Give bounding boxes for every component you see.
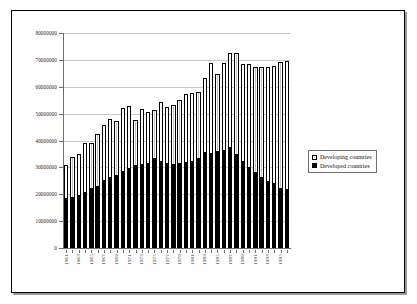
x-axis-tick: [173, 250, 174, 253]
x-axis-tick: [110, 250, 111, 253]
stacked-bar: [196, 92, 200, 248]
y-axis-tick-label: 20000000: [35, 191, 57, 197]
bar-segment-developed: [209, 153, 213, 248]
bar-segment-developing: [114, 121, 118, 174]
bar-segment-developing: [184, 94, 188, 163]
x-axis-tick-label: 1975: [152, 254, 157, 265]
x-axis-tick: [268, 250, 269, 253]
bar-segment-developing: [234, 53, 238, 154]
bar-segment-developed: [247, 167, 251, 248]
bar-segment-developing: [266, 67, 270, 181]
bar-segment-developing: [83, 143, 87, 192]
stacked-bar: [272, 66, 276, 248]
legend-label-developing: Developing countries: [320, 154, 372, 160]
stacked-bar: [108, 119, 112, 248]
stacked-bar: [234, 53, 238, 248]
x-axis-tick: [186, 250, 187, 253]
bar-segment-developed: [253, 172, 257, 248]
stacked-bar: [152, 110, 156, 248]
bar-segment-developed: [259, 177, 263, 248]
y-axis-tick-label: 50000000: [35, 111, 57, 117]
bar-segment-developed: [241, 161, 245, 248]
bar-segment-developing: [190, 93, 194, 161]
bar-segment-developing: [228, 53, 232, 147]
bar-segment-developing: [272, 66, 276, 183]
x-axis-tick-label: 1991: [253, 254, 258, 265]
bar-segment-developed: [203, 152, 207, 248]
bar-segment-developed: [108, 177, 112, 248]
stacked-bar: [77, 154, 81, 248]
bar-segment-developing: [89, 143, 93, 189]
x-axis-tick-label: 1973: [139, 254, 144, 265]
stacked-bar: [177, 100, 181, 248]
legend-label-developed: Developed countries: [320, 163, 369, 169]
stacked-bar: [127, 106, 131, 248]
stacked-bar: [278, 62, 282, 248]
bar-segment-developing: [247, 64, 251, 167]
bar-segment-developed: [146, 163, 150, 248]
x-axis-tick: [136, 250, 137, 253]
bar-segment-developed: [165, 163, 169, 248]
bar-segment-developed: [121, 171, 125, 248]
bar-segment-developed: [102, 180, 106, 248]
bar-segment-developed: [184, 162, 188, 248]
x-axis-tick: [167, 250, 168, 253]
bar-segment-developed: [285, 189, 289, 248]
bar-segment-developed: [177, 163, 181, 248]
stacked-bar: [89, 143, 93, 248]
bar-segment-developing: [253, 67, 257, 173]
stacked-bar: [184, 94, 188, 248]
bar-segment-developing: [165, 107, 169, 163]
x-axis-tick-label: 1963: [76, 254, 81, 265]
bar-segment-developing: [95, 134, 99, 186]
bar-segment-developed: [272, 183, 276, 248]
stacked-bar: [222, 63, 226, 248]
bar-segment-developing: [196, 92, 200, 158]
x-axis-tick: [129, 250, 130, 253]
bar-segment-developed: [89, 188, 93, 248]
bar-segment-developing: [259, 67, 263, 177]
legend-swatch-open-square-icon: [312, 155, 317, 160]
chart-legend: Developing countries Developed countries: [308, 150, 377, 173]
stacked-bar: [64, 165, 68, 248]
x-axis-labels: 1961196319651967196919711973197519771979…: [63, 250, 290, 292]
x-axis-tick: [192, 250, 193, 253]
x-axis-tick: [117, 250, 118, 253]
legend-item-developed: Developed countries: [312, 163, 372, 169]
bar-segment-developing: [171, 105, 175, 164]
stacked-bar: [70, 157, 74, 248]
y-axis-tick-label: 70000000: [35, 57, 57, 63]
stacked-bar: [171, 105, 175, 248]
bar-segment-developed: [77, 195, 81, 248]
bar-segment-developing: [285, 61, 289, 189]
y-axis-tick-label: 40000000: [35, 138, 57, 144]
stacked-bar: [215, 74, 219, 248]
bar-series-group: [63, 33, 290, 248]
bar-segment-developing: [108, 119, 112, 177]
bar-segment-developing: [159, 102, 163, 162]
stacked-bar: [146, 112, 150, 248]
stacked-bar: [102, 125, 106, 248]
bar-segment-developed: [171, 164, 175, 248]
x-axis-tick: [104, 250, 105, 253]
stacked-bar: [266, 67, 270, 248]
x-axis-tick: [287, 250, 288, 253]
legend-swatch-filled-square-icon: [312, 163, 317, 168]
bar-segment-developed: [196, 158, 200, 248]
bar-segment-developed: [222, 150, 226, 248]
bar-segment-developing: [203, 78, 207, 153]
stacked-bar: [159, 102, 163, 248]
stacked-bar: [121, 108, 125, 248]
bar-segment-developed: [234, 154, 238, 248]
x-axis-line: [63, 248, 291, 249]
bar-segment-developed: [127, 168, 131, 248]
stacked-bar: [247, 64, 251, 248]
x-axis-tick-label: 1971: [127, 254, 132, 265]
bar-segment-developing: [133, 120, 137, 165]
stacked-bar: [209, 63, 213, 248]
y-axis-tick-label: 60000000: [35, 84, 57, 90]
bar-segment-developed: [133, 165, 137, 248]
x-axis-tick: [224, 250, 225, 253]
bar-segment-developed: [190, 161, 194, 248]
bar-segment-developed: [95, 186, 99, 248]
